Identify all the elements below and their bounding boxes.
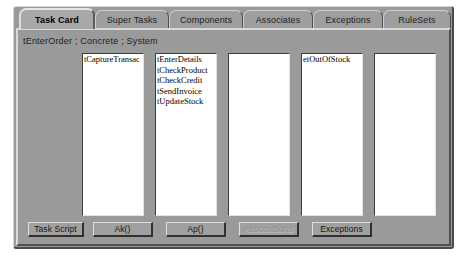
- tab-label: Exceptions: [325, 15, 370, 25]
- tab-label: Super Tasks: [107, 15, 157, 25]
- exceptions-button[interactable]: Exceptions: [312, 222, 372, 237]
- tab-super-tasks[interactable]: Super Tasks: [95, 10, 169, 29]
- ap-list[interactable]: [228, 53, 290, 216]
- associations-button: Associations: [239, 222, 299, 237]
- task-card-window: Task CardSuper TasksComponentsAssociates…: [13, 6, 454, 249]
- exceptions-list[interactable]: [374, 53, 436, 216]
- tab-label: Components: [180, 15, 232, 25]
- button-label: Ap(): [187, 224, 203, 234]
- tab-strip: Task CardSuper TasksComponentsAssociates…: [14, 7, 455, 29]
- list-item[interactable]: etOutOfStock: [302, 54, 362, 65]
- task-script-list[interactable]: tCaptureTransac: [82, 53, 144, 216]
- tab-associates[interactable]: Associates: [243, 10, 313, 29]
- list-item[interactable]: tCaptureTransac: [83, 54, 143, 65]
- ap-button[interactable]: Ap(): [166, 222, 226, 237]
- list-item[interactable]: tEnterDetails: [156, 54, 216, 65]
- tab-label: RuleSets: [398, 15, 435, 25]
- associations-list[interactable]: etOutOfStock: [301, 53, 363, 216]
- tab-task-card[interactable]: Task Card: [19, 8, 95, 29]
- application-root: Task CardSuper TasksComponentsAssociates…: [0, 0, 467, 267]
- list-item[interactable]: tSendInvoice: [156, 86, 216, 97]
- list-item[interactable]: tCheckCredit: [156, 75, 216, 86]
- ak-button[interactable]: Ak(): [93, 222, 153, 237]
- list-item[interactable]: tUpdateStock: [156, 96, 216, 107]
- tab-rulesets[interactable]: RuleSets: [383, 10, 451, 29]
- button-label: Exceptions: [320, 224, 363, 234]
- task-card-tab-page: tEnterOrder ; Concrete ; System tCapture…: [16, 28, 451, 246]
- tab-label: Associates: [256, 15, 301, 25]
- button-label: Ak(): [115, 224, 131, 234]
- button-label: Task Script: [34, 224, 77, 234]
- tab-label: Task Card: [35, 15, 79, 25]
- tab-exceptions[interactable]: Exceptions: [313, 10, 383, 29]
- ak-list[interactable]: tEnterDetailstCheckProducttCheckCredittS…: [155, 53, 217, 216]
- button-label: Associations: [244, 224, 293, 234]
- tab-components[interactable]: Components: [169, 10, 243, 29]
- page-subtitle: tEnterOrder ; Concrete ; System: [23, 36, 158, 46]
- list-item[interactable]: tCheckProduct: [156, 65, 216, 76]
- task-script-button[interactable]: Task Script: [28, 222, 84, 237]
